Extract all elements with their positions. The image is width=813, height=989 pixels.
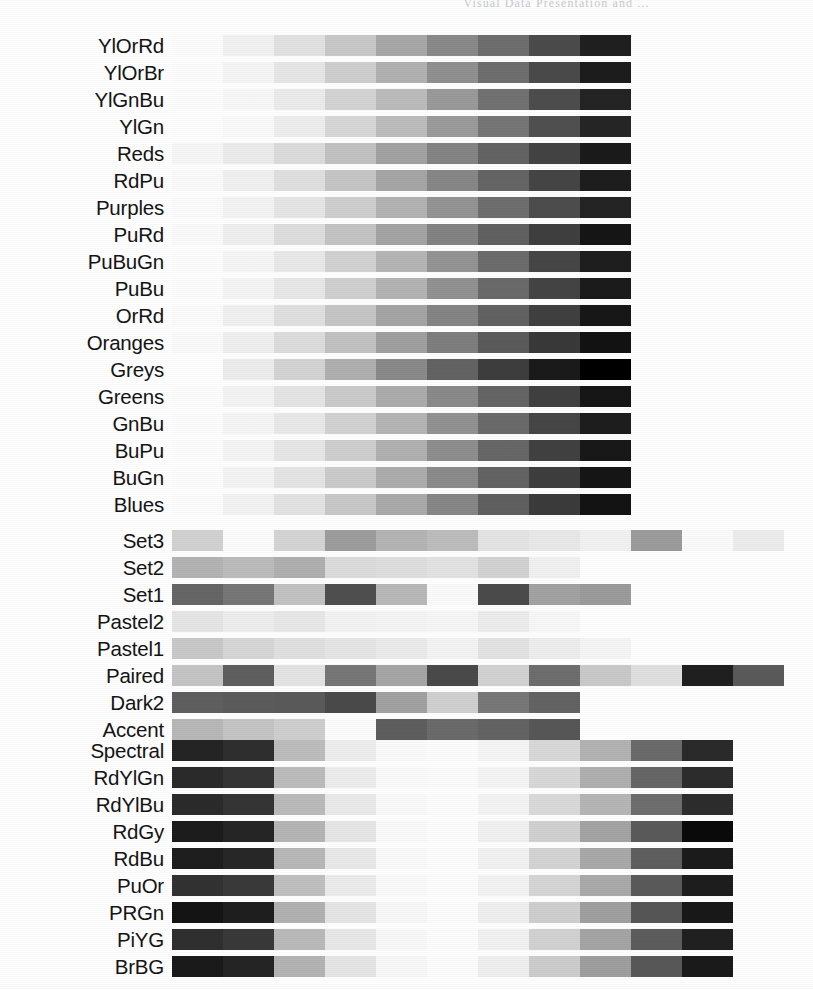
colormap-bar-set3[interactable] bbox=[172, 530, 784, 551]
colormap-bar-purples[interactable] bbox=[172, 197, 631, 218]
colormap-bar-ylorbr[interactable] bbox=[172, 62, 631, 83]
colormap-row[interactable]: Set1 bbox=[0, 581, 813, 608]
colormap-swatch bbox=[427, 413, 478, 434]
colormap-bar-reds[interactable] bbox=[172, 143, 631, 164]
colormap-swatch bbox=[478, 62, 529, 83]
colormap-row[interactable]: GnBu bbox=[0, 410, 813, 437]
colormap-row[interactable]: BuPu bbox=[0, 437, 813, 464]
colormap-row[interactable]: Purples bbox=[0, 194, 813, 221]
colormap-bar-orrd[interactable] bbox=[172, 305, 631, 326]
colormap-swatch bbox=[631, 530, 682, 551]
colormap-row[interactable]: Greens bbox=[0, 383, 813, 410]
colormap-row[interactable]: BrBG bbox=[0, 953, 813, 980]
colormap-label-ylorbr: YlOrBr bbox=[0, 59, 172, 86]
colormap-bar-gnbu[interactable] bbox=[172, 413, 631, 434]
colormap-row[interactable]: Pastel1 bbox=[0, 635, 813, 662]
colormap-swatch bbox=[478, 557, 529, 578]
colormap-row[interactable]: Spectral bbox=[0, 737, 813, 764]
colormap-swatch bbox=[376, 278, 427, 299]
colormap-bar-set1[interactable] bbox=[172, 584, 631, 605]
colormap-bar-greys[interactable] bbox=[172, 359, 631, 380]
colormap-bar-pastel2[interactable] bbox=[172, 611, 580, 632]
colormap-row[interactable]: PuBuGn bbox=[0, 248, 813, 275]
colormap-swatch bbox=[325, 251, 376, 272]
colormap-swatch bbox=[325, 332, 376, 353]
colormap-swatch bbox=[172, 794, 223, 815]
colormap-bar-piyg[interactable] bbox=[172, 929, 733, 950]
colormap-bar-ylgnbu[interactable] bbox=[172, 89, 631, 110]
colormap-bar-rdgy[interactable] bbox=[172, 821, 733, 842]
colormap-bar-ylgn[interactable] bbox=[172, 116, 631, 137]
colormap-swatch bbox=[325, 197, 376, 218]
colormap-swatch bbox=[580, 638, 631, 659]
colormap-bar-prgn[interactable] bbox=[172, 902, 733, 923]
colormap-row[interactable]: Blues bbox=[0, 491, 813, 518]
colormap-swatch bbox=[223, 278, 274, 299]
colormap-swatch bbox=[223, 902, 274, 923]
colormap-bar-brbg[interactable] bbox=[172, 956, 733, 977]
colormap-row[interactable]: YlGnBu bbox=[0, 86, 813, 113]
colormap-swatch bbox=[172, 530, 223, 551]
colormap-bar-oranges[interactable] bbox=[172, 332, 631, 353]
colormap-bar-paired[interactable] bbox=[172, 665, 784, 686]
colormap-row[interactable]: YlOrRd bbox=[0, 32, 813, 59]
colormap-bar-bupu[interactable] bbox=[172, 440, 631, 461]
colormap-row[interactable]: PuBu bbox=[0, 275, 813, 302]
colormap-label-rdbu: RdBu bbox=[0, 845, 172, 872]
colormap-row[interactable]: Oranges bbox=[0, 329, 813, 356]
colormap-swatch bbox=[325, 440, 376, 461]
colormap-bar-set2[interactable] bbox=[172, 557, 580, 578]
colormap-bar-rdylbu[interactable] bbox=[172, 794, 733, 815]
colormap-bar-bugn[interactable] bbox=[172, 467, 631, 488]
colormap-swatch bbox=[529, 35, 580, 56]
colormap-bar-puor[interactable] bbox=[172, 875, 733, 896]
colormap-bar-pubu[interactable] bbox=[172, 278, 631, 299]
colormap-row[interactable]: RdBu bbox=[0, 845, 813, 872]
colormap-row[interactable]: Paired bbox=[0, 662, 813, 689]
colormap-row[interactable]: Dark2 bbox=[0, 689, 813, 716]
colormap-bar-dark2[interactable] bbox=[172, 692, 580, 713]
colormap-bar-pubugn[interactable] bbox=[172, 251, 631, 272]
colormap-swatch bbox=[325, 143, 376, 164]
colormap-bar-ylorrd[interactable] bbox=[172, 35, 631, 56]
colormap-row[interactable]: OrRd bbox=[0, 302, 813, 329]
colormap-swatch bbox=[529, 332, 580, 353]
colormap-row[interactable]: PiYG bbox=[0, 926, 813, 953]
colormap-swatch bbox=[427, 875, 478, 896]
colormap-row[interactable]: RdYlGn bbox=[0, 764, 813, 791]
colormap-swatch bbox=[529, 767, 580, 788]
colormap-swatch bbox=[325, 692, 376, 713]
colormap-row[interactable]: PuOr bbox=[0, 872, 813, 899]
colormap-row[interactable]: Greys bbox=[0, 356, 813, 383]
colormap-bar-spectral[interactable] bbox=[172, 740, 733, 761]
colormap-row[interactable]: Pastel2 bbox=[0, 608, 813, 635]
colormap-row[interactable]: Set3 bbox=[0, 527, 813, 554]
colormap-bar-pastel1[interactable] bbox=[172, 638, 631, 659]
colormap-row[interactable]: RdPu bbox=[0, 167, 813, 194]
colormap-swatch bbox=[325, 611, 376, 632]
colormap-swatch bbox=[223, 611, 274, 632]
colormap-swatch bbox=[580, 278, 631, 299]
colormap-row[interactable]: BuGn bbox=[0, 464, 813, 491]
colormap-swatch bbox=[478, 359, 529, 380]
colormap-label-set1: Set1 bbox=[0, 581, 172, 608]
colormap-bar-rdpu[interactable] bbox=[172, 170, 631, 191]
colormap-row[interactable]: Reds bbox=[0, 140, 813, 167]
colormap-row[interactable]: PRGn bbox=[0, 899, 813, 926]
colormap-row[interactable]: RdYlBu bbox=[0, 791, 813, 818]
colormap-row[interactable]: YlOrBr bbox=[0, 59, 813, 86]
colormap-bar-purd[interactable] bbox=[172, 224, 631, 245]
colormap-swatch bbox=[478, 638, 529, 659]
colormap-bar-rdbu[interactable] bbox=[172, 848, 733, 869]
colormap-row[interactable]: RdGy bbox=[0, 818, 813, 845]
colormap-row[interactable]: YlGn bbox=[0, 113, 813, 140]
colormap-row[interactable]: PuRd bbox=[0, 221, 813, 248]
colormap-swatch bbox=[376, 794, 427, 815]
colormap-row[interactable]: Set2 bbox=[0, 554, 813, 581]
colormap-bar-rdylgn[interactable] bbox=[172, 767, 733, 788]
colormap-bar-blues[interactable] bbox=[172, 494, 631, 515]
colormap-swatch bbox=[376, 251, 427, 272]
colormap-swatch bbox=[223, 332, 274, 353]
colormap-swatch bbox=[478, 584, 529, 605]
colormap-bar-greens[interactable] bbox=[172, 386, 631, 407]
